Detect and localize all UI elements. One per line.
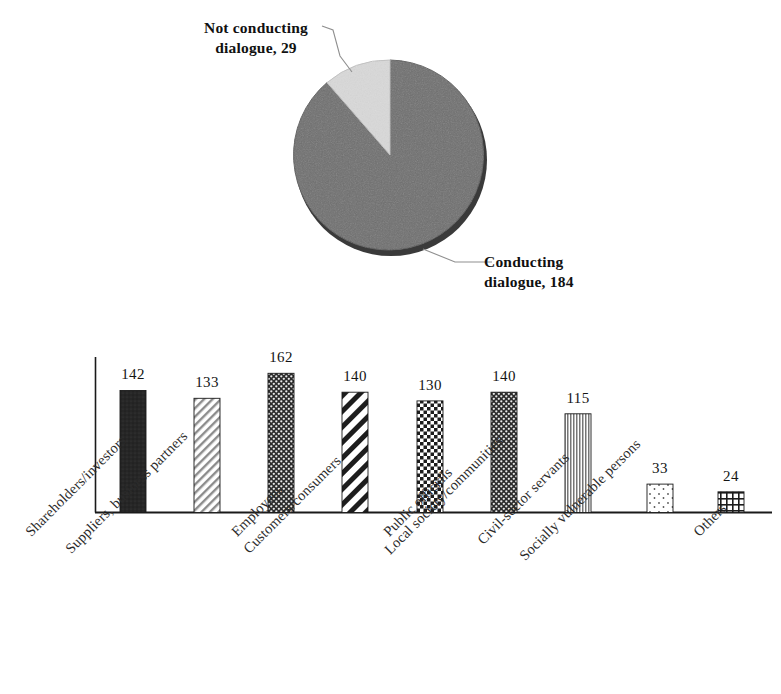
pie-label-not-conducting-line1: Not conducting	[176, 18, 336, 38]
bar-value-civil-sector-servants: 115	[548, 390, 608, 407]
bar-value-socially-vulnerable-persons: 33	[630, 460, 690, 477]
bar-value-public-officials: 130	[400, 377, 460, 394]
bar-value-employees: 162	[251, 349, 311, 366]
bar-value-shareholders-investors: 142	[103, 366, 163, 383]
bar-value-local-society-communities: 140	[474, 368, 534, 385]
bar-value-others: 24	[701, 468, 761, 485]
pie-label-conducting: Conducting dialogue, 184	[484, 252, 684, 292]
pie-label-not-conducting: Not conducting dialogue, 29	[176, 18, 336, 58]
pie-label-not-conducting-line2: dialogue, 29	[176, 38, 336, 58]
bar-socially-vulnerable-persons	[647, 484, 673, 512]
bar-value-customers-consumers: 140	[325, 368, 385, 385]
pie-chart: Not conducting dialogue, 29 Conducting d…	[0, 0, 781, 330]
bar-customers-consumers	[342, 392, 368, 512]
bar-suppliers-business-partners	[194, 398, 220, 512]
pie-label-conducting-line1: Conducting	[484, 252, 684, 272]
figure-container: Not conducting dialogue, 29 Conducting d…	[0, 0, 781, 694]
pie-label-conducting-line2: dialogue, 184	[484, 272, 684, 292]
leader-line-conducting	[423, 249, 492, 262]
bar-value-suppliers-business-partners: 133	[177, 374, 237, 391]
bar-chart: 142 133 162 140 130 140 115 33 24 Shareh…	[0, 330, 781, 694]
